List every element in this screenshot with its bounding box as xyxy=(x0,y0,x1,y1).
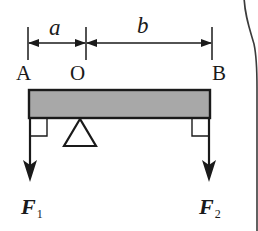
fulcrum-triangle-icon xyxy=(64,119,96,146)
force-subscript-f1: 1 xyxy=(37,207,43,221)
point-label-b: B xyxy=(212,63,226,84)
point-label-a: A xyxy=(16,63,31,84)
force-subscript-f2: 2 xyxy=(215,207,221,221)
dimension-arrow-a-left xyxy=(28,39,39,47)
beam-bar xyxy=(29,90,210,118)
force-symbol-f2: F xyxy=(199,194,214,219)
dimension-label-a: a xyxy=(49,16,61,39)
right-angle-marker-left-icon xyxy=(30,119,47,136)
dimension-arrow-b-right xyxy=(201,39,212,47)
dimension-label-b: b xyxy=(137,14,149,37)
right-angle-marker-right-icon xyxy=(192,119,209,136)
page-frame-arc xyxy=(244,0,257,231)
lever-diagram: a b A O B F1 F2 xyxy=(0,0,258,231)
dimension-arrow-a-right xyxy=(75,39,86,47)
force-label-f1: F1 xyxy=(21,196,42,218)
point-label-o: O xyxy=(70,63,85,84)
dimension-arrow-b-left xyxy=(86,39,97,47)
force-label-f2: F2 xyxy=(199,196,220,218)
force-symbol-f1: F xyxy=(21,194,36,219)
